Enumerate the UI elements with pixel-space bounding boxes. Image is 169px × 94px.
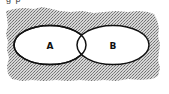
set-b-label: B [110,41,117,51]
venn-diagram-figure: g p A B [0,0,169,94]
venn-diagram-canvas: A B [0,0,169,94]
set-a-label: A [47,41,54,51]
cropped-caption-text: g p [6,0,22,4]
